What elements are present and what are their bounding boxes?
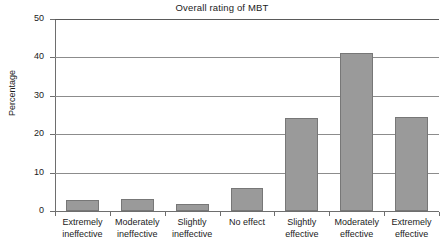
bar: [285, 118, 318, 211]
x-tick-mark: [329, 212, 330, 216]
bar-chart-figure: Overall rating of MBT Percentage 0102030…: [0, 0, 444, 249]
x-tick-label-line: ineffective: [110, 229, 165, 241]
y-tick-label: 40: [4, 51, 44, 61]
gridline-20: [55, 134, 439, 135]
y-tick-label: 50: [4, 13, 44, 23]
x-tick-label-line: Slightly: [165, 217, 220, 229]
gridline-50: [55, 19, 439, 20]
x-tick-mark: [274, 212, 275, 216]
x-tick-label-line: Extremely: [55, 217, 110, 229]
bar: [176, 204, 209, 211]
x-tick-label-line: ineffective: [55, 229, 110, 241]
gridline-10: [55, 173, 439, 174]
x-tick-label-line: No effect: [220, 217, 275, 229]
bar: [121, 199, 154, 211]
x-tick-label-line: effective: [329, 229, 384, 241]
gridline-30: [55, 96, 439, 97]
x-tick-mark: [110, 212, 111, 216]
y-tick-label: 0: [4, 205, 44, 215]
x-tick-mark: [220, 212, 221, 216]
x-tick-label-line: effective: [384, 229, 439, 241]
x-tick-label-line: ineffective: [165, 229, 220, 241]
bar: [340, 53, 373, 211]
x-tick-label: Moderatelyineffective: [110, 217, 165, 240]
x-tick-mark: [384, 212, 385, 216]
bar: [395, 117, 428, 211]
x-tick-label: Moderatelyeffective: [329, 217, 384, 240]
x-tick-label: Extremelyineffective: [55, 217, 110, 240]
x-tick-mark: [165, 212, 166, 216]
plot-area: [55, 19, 439, 211]
x-tick-label: Slightlyineffective: [165, 217, 220, 240]
bar: [231, 188, 264, 211]
x-tick-label: Slightlyeffective: [274, 217, 329, 240]
x-tick-label: No effect: [220, 217, 275, 229]
y-tick-label: 30: [4, 90, 44, 100]
gridline-0: [55, 211, 439, 212]
x-tick-label-line: Extremely: [384, 217, 439, 229]
x-tick-label-line: Moderately: [110, 217, 165, 229]
x-tick-label-line: Slightly: [274, 217, 329, 229]
x-tick-mark: [55, 212, 56, 216]
x-tick-label: Extremelyeffective: [384, 217, 439, 240]
y-tick-label: 20: [4, 128, 44, 138]
y-tick-label: 10: [4, 167, 44, 177]
gridline-40: [55, 57, 439, 58]
chart-title: Overall rating of MBT: [0, 2, 444, 13]
x-tick-label-line: effective: [274, 229, 329, 241]
bar: [66, 200, 99, 211]
x-tick-mark: [439, 212, 440, 216]
x-tick-label-line: Moderately: [329, 217, 384, 229]
